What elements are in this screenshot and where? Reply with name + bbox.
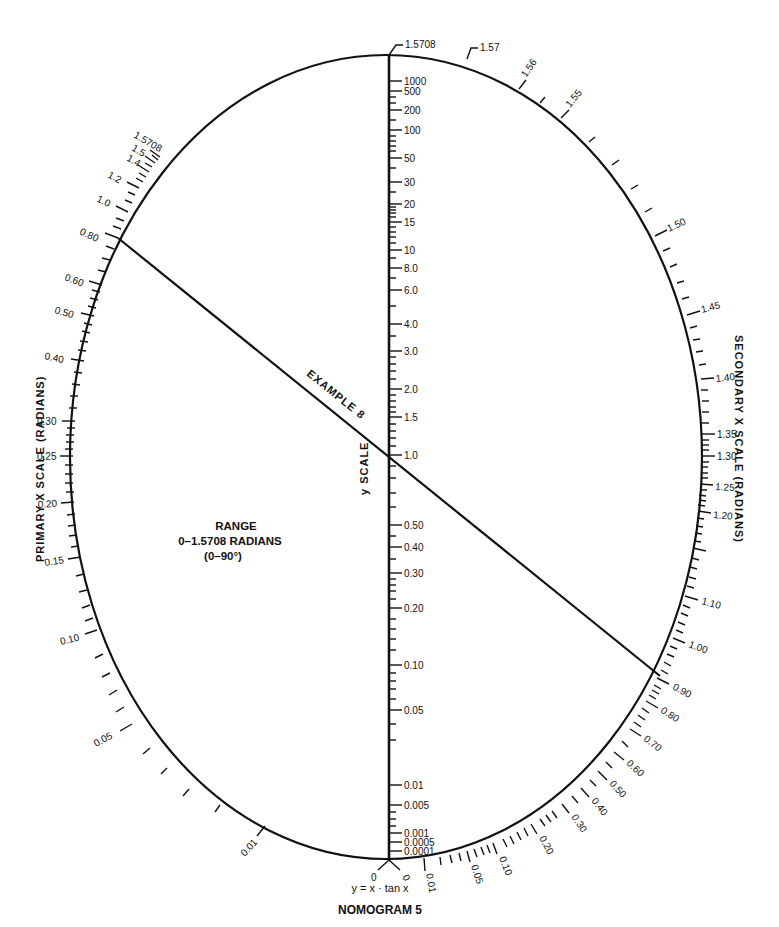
sx-label: 0.60: [625, 757, 647, 779]
y-label: 15: [404, 217, 416, 228]
primary-x-ticks: [60, 150, 265, 836]
sx-label: 0.80: [659, 704, 682, 724]
sx-label: 0.40: [589, 795, 610, 817]
y-label: 0.40: [404, 542, 424, 553]
px-label: 1.2: [106, 169, 124, 185]
y-label: 0.0001: [404, 846, 435, 857]
px-label: 0.10: [59, 631, 81, 646]
sx-label: 1.10: [700, 595, 722, 611]
y-label: 30: [404, 177, 416, 188]
sx-label: 1.55: [563, 87, 584, 109]
px-label: 0.60: [63, 272, 85, 289]
range-line-1: RANGE: [215, 520, 257, 532]
y-label: 0.01: [404, 780, 424, 791]
sx-label: 1.00: [687, 639, 709, 656]
y-label: 50: [404, 153, 416, 164]
secondary-x-ticks: [424, 48, 715, 871]
y-label: 6.0: [404, 285, 418, 296]
sx-label: 0.01: [424, 872, 438, 894]
sx-label: 0.70: [642, 733, 664, 754]
y-label-1.5708: 1.5708: [405, 39, 436, 50]
y-label: 10: [404, 245, 416, 256]
y-label: 0.10: [404, 660, 424, 671]
y-label: 0.20: [404, 603, 424, 614]
y-label: 2.0: [404, 384, 418, 395]
y-label: 8.0: [404, 263, 418, 274]
y-scale-labels: 1.5708 1000 500 200 100 50 30 20 15 10 8…: [371, 39, 436, 883]
sx-label: 1.45: [700, 299, 722, 315]
y-label: 3.0: [404, 346, 418, 357]
px-label: 0.80: [78, 226, 101, 244]
sx-label: 0.90: [671, 681, 694, 700]
sx-label: 1.56: [519, 57, 539, 80]
y-label: 0.05: [404, 705, 424, 716]
sx-label: 1.20: [713, 509, 734, 522]
y-label: 0.50: [404, 520, 424, 531]
y-label: 1.0: [404, 450, 418, 461]
nomogram-canvas: 1.5708 1000 500 200 100 50 30 20 15 10 8…: [0, 0, 779, 927]
px-label: 0.05: [92, 730, 115, 749]
sx-label: 1.57: [480, 42, 500, 53]
sx-label: 1.50: [665, 215, 688, 233]
sx-label: 1.25: [715, 481, 735, 493]
sx-label: 0.50: [608, 778, 629, 800]
sx-label: 0.05: [469, 863, 486, 885]
sx-label: 0.20: [537, 834, 556, 857]
y-label: 0.30: [404, 568, 424, 579]
primary-x-scale-title: PRIMARY X SCALE (RADIANS): [34, 376, 46, 562]
px-label: 0.15: [44, 554, 65, 568]
range-note: RANGE 0–1.5708 RADIANS (0–90°): [178, 520, 282, 562]
y-label: 20: [404, 199, 416, 210]
nomogram-title: NOMOGRAM 5: [338, 903, 422, 917]
px-label: 0.01: [238, 836, 259, 858]
sx-label: 1.40: [715, 371, 736, 384]
px-label: 0.40: [44, 350, 66, 365]
y-scale-title: y SCALE: [358, 442, 370, 495]
secondary-x-labels: 1.57 1.56 1.55 1.50 1.45 1.40 1.35 1.30 …: [424, 42, 737, 894]
secondary-x-scale-title: SECONDARY X SCALE (RADIANS): [733, 335, 745, 543]
px-label: 1.0: [95, 193, 113, 209]
sx-label: 0.10: [497, 855, 515, 878]
range-line-2: 0–1.5708 RADIANS: [178, 535, 282, 547]
y-label: 100: [404, 125, 421, 136]
px-label: 0.50: [53, 304, 75, 320]
y-label: 200: [404, 105, 421, 116]
nomogram-ellipse: [70, 55, 702, 859]
y-label: 4.0: [404, 319, 418, 330]
y-label: 500: [404, 86, 421, 97]
range-line-3: (0–90°): [204, 550, 242, 562]
y-label: 1.5: [404, 412, 418, 423]
formula: y = x · tan x: [351, 882, 409, 894]
y-label: 0.005: [404, 800, 429, 811]
sx-label: 0.30: [569, 812, 589, 835]
